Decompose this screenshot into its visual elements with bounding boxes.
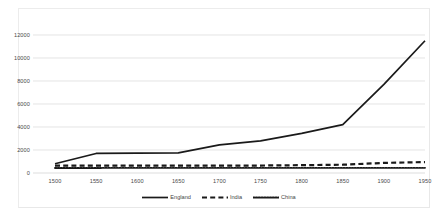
y-tick-label-12000: 12000 [0, 32, 30, 38]
gridlines [33, 35, 425, 173]
legend-label-england: England [170, 194, 191, 200]
chart-legend: EnglandIndiaChina [0, 190, 438, 204]
x-tick-label-1750: 1750 [254, 178, 267, 184]
y-tick-label-8000: 8000 [0, 78, 30, 84]
x-tick-label-1900: 1900 [377, 178, 390, 184]
legend-item-india[interactable]: India [202, 193, 242, 202]
y-tick-label-6000: 6000 [0, 101, 30, 107]
legend-swatch-solid-line-icon [142, 193, 168, 202]
series-line-india [55, 162, 425, 165]
x-tick-label-1500: 1500 [49, 178, 62, 184]
legend-swatch-dashed-line-icon [202, 193, 228, 202]
y-tick-label-4000: 4000 [0, 124, 30, 130]
x-tick-label-1950: 1950 [419, 178, 432, 184]
legend-label-china: China [281, 194, 296, 200]
y-tick-label-0: 0 [0, 170, 30, 176]
chart-container: 020004000600080001000012000 150015501600… [0, 0, 438, 217]
x-tick-label-1550: 1550 [90, 178, 103, 184]
x-tick-label-1600: 1600 [131, 178, 144, 184]
series-lines [55, 41, 425, 168]
y-tick-label-2000: 2000 [0, 147, 30, 153]
series-line-england [55, 41, 425, 164]
x-tick-label-1650: 1650 [172, 178, 185, 184]
legend-swatch-dotted-line-icon [253, 193, 279, 202]
x-tick-label-1850: 1850 [336, 178, 349, 184]
x-tick-label-1700: 1700 [213, 178, 226, 184]
legend-item-china[interactable]: China [253, 193, 296, 202]
chart-canvas [0, 0, 438, 217]
legend-item-england[interactable]: England [142, 193, 191, 202]
x-tick-label-1800: 1800 [295, 178, 308, 184]
y-tick-label-10000: 10000 [0, 55, 30, 61]
legend-label-india: India [230, 194, 242, 200]
